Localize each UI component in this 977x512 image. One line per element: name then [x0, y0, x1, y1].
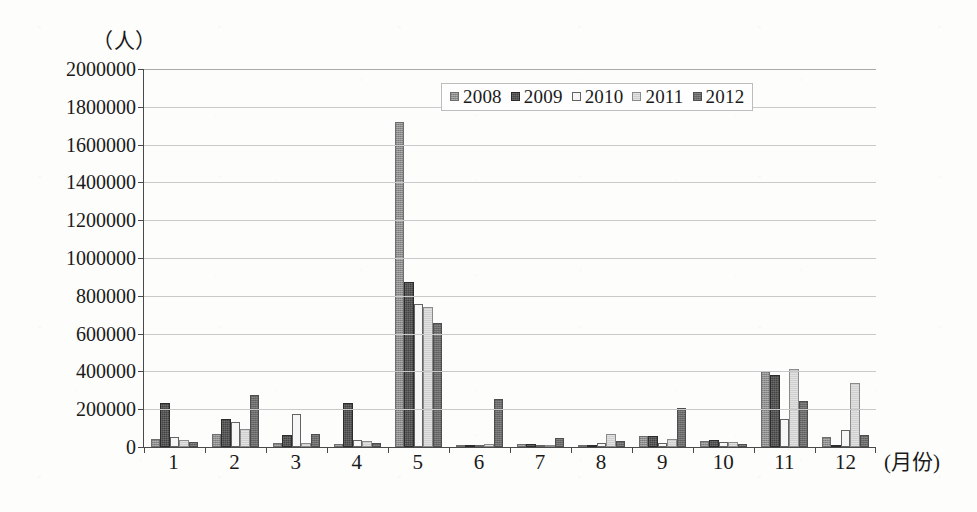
y-axis-unit-label: （人）: [92, 24, 157, 54]
x-axis-label-month-3: 3: [265, 452, 326, 473]
y-axis-tick-label: 600000: [76, 324, 136, 344]
bar-2010-month-6[interactable]: [475, 445, 485, 447]
bar-2011-month-8[interactable]: [606, 434, 616, 447]
bar-2012-month-7[interactable]: [555, 438, 565, 447]
y-axis-tick-mark: [138, 409, 144, 410]
x-axis-label-month-12: 12: [815, 452, 876, 473]
bar-2011-month-4[interactable]: [362, 441, 372, 447]
gridline: [144, 296, 876, 297]
bar-2012-month-3[interactable]: [311, 434, 321, 447]
legend-swatch-2010-icon: [572, 92, 581, 101]
legend-item-2008[interactable]: 2008: [450, 87, 502, 106]
bar-2011-month-2[interactable]: [240, 429, 250, 447]
chart-legend: 20082009201020112012: [441, 83, 753, 111]
bar-2010-month-2[interactable]: [231, 422, 241, 447]
y-axis-tick-mark: [138, 107, 144, 108]
chart-page: （人） 200000018000001600000140000012000001…: [0, 0, 977, 512]
bar-2008-month-3[interactable]: [273, 443, 283, 447]
y-axis-tick-mark: [138, 371, 144, 372]
x-axis-label-month-8: 8: [571, 452, 632, 473]
bar-2008-month-10[interactable]: [700, 441, 710, 447]
bar-2009-month-10[interactable]: [709, 440, 719, 447]
y-axis-tick-mark: [138, 69, 144, 70]
bar-2011-month-6[interactable]: [484, 444, 494, 447]
bar-2010-month-3[interactable]: [292, 414, 302, 447]
bar-2012-month-4[interactable]: [372, 443, 382, 447]
x-axis-label-month-2: 2: [204, 452, 265, 473]
bar-2012-month-9[interactable]: [677, 408, 687, 447]
legend-item-2012[interactable]: 2012: [693, 87, 745, 106]
y-axis-tick-label: 1000000: [66, 248, 136, 268]
bar-2010-month-8[interactable]: [597, 443, 607, 447]
y-axis-tick-mark: [138, 182, 144, 183]
y-axis-tick-label: 0: [126, 437, 136, 457]
legend-item-2010[interactable]: 2010: [572, 87, 624, 106]
y-axis-tick-label: 200000: [76, 399, 136, 419]
bar-2010-month-9[interactable]: [658, 443, 668, 447]
bar-2008-month-5[interactable]: [395, 122, 405, 447]
bar-2009-month-12[interactable]: [831, 445, 841, 447]
bar-2011-month-10[interactable]: [728, 442, 738, 447]
bar-2011-month-3[interactable]: [301, 443, 311, 447]
x-axis-label-month-11: 11: [754, 452, 815, 473]
bar-2010-month-4[interactable]: [353, 440, 363, 447]
bar-2008-month-9[interactable]: [639, 436, 649, 447]
x-axis-label-month-9: 9: [632, 452, 693, 473]
bar-2012-month-1[interactable]: [189, 442, 199, 447]
bar-2012-month-10[interactable]: [738, 444, 748, 447]
y-axis-tick-mark: [138, 145, 144, 146]
bar-2010-month-12[interactable]: [841, 430, 851, 447]
y-axis-tick-label: 1600000: [66, 135, 136, 155]
bar-2010-month-7[interactable]: [536, 445, 546, 447]
bar-2009-month-6[interactable]: [465, 445, 475, 447]
bar-2012-month-5[interactable]: [433, 323, 443, 447]
legend-label-2012: 2012: [706, 87, 745, 106]
x-axis-label-month-4: 4: [326, 452, 387, 473]
y-axis-tick-label: 800000: [76, 286, 136, 306]
bar-2009-month-8[interactable]: [587, 445, 597, 447]
bar-2010-month-11[interactable]: [780, 419, 790, 447]
legend-swatch-2009-icon: [511, 92, 520, 101]
legend-label-2010: 2010: [585, 87, 624, 106]
bar-2008-month-4[interactable]: [334, 444, 344, 447]
bar-2008-month-8[interactable]: [578, 445, 588, 447]
bar-2009-month-11[interactable]: [770, 375, 780, 447]
bar-2010-month-10[interactable]: [719, 442, 729, 447]
legend-item-2009[interactable]: 2009: [511, 87, 563, 106]
gridline: [144, 334, 876, 335]
y-axis-tick-label: 2000000: [66, 59, 136, 79]
bar-2012-month-6[interactable]: [494, 399, 504, 447]
bar-2011-month-5[interactable]: [423, 307, 433, 447]
bar-2012-month-11[interactable]: [799, 401, 809, 447]
bar-2011-month-11[interactable]: [789, 369, 799, 447]
bar-2008-month-6[interactable]: [456, 445, 466, 447]
bar-2011-month-1[interactable]: [179, 440, 189, 447]
bar-2008-month-7[interactable]: [517, 444, 527, 447]
bar-2008-month-12[interactable]: [822, 437, 832, 447]
y-axis-tick-mark: [138, 258, 144, 259]
bar-2009-month-3[interactable]: [282, 435, 292, 447]
bar-2010-month-5[interactable]: [414, 304, 424, 447]
legend-item-2011[interactable]: 2011: [632, 87, 683, 106]
bar-2012-month-2[interactable]: [250, 395, 260, 447]
bar-2009-month-5[interactable]: [404, 282, 414, 447]
gridline: [144, 145, 876, 146]
bar-2010-month-1[interactable]: [170, 437, 180, 447]
gridline: [144, 220, 876, 221]
x-axis-label-month-10: 10: [693, 452, 754, 473]
y-axis-tick-label: 1400000: [66, 172, 136, 192]
bar-2011-month-12[interactable]: [850, 383, 860, 447]
y-axis-tick-mark: [138, 334, 144, 335]
bar-2009-month-9[interactable]: [648, 436, 658, 447]
x-axis-title: (月份): [884, 452, 940, 473]
bar-2009-month-7[interactable]: [526, 444, 536, 447]
y-axis-tick-mark: [138, 296, 144, 297]
bar-2008-month-1[interactable]: [151, 439, 161, 448]
bar-2011-month-7[interactable]: [545, 445, 555, 447]
bar-2008-month-2[interactable]: [212, 434, 222, 447]
bar-2012-month-8[interactable]: [616, 441, 626, 447]
bar-2011-month-9[interactable]: [667, 439, 677, 448]
gridline: [144, 258, 876, 259]
bar-2012-month-12[interactable]: [860, 435, 870, 447]
bar-2009-month-2[interactable]: [221, 419, 231, 447]
